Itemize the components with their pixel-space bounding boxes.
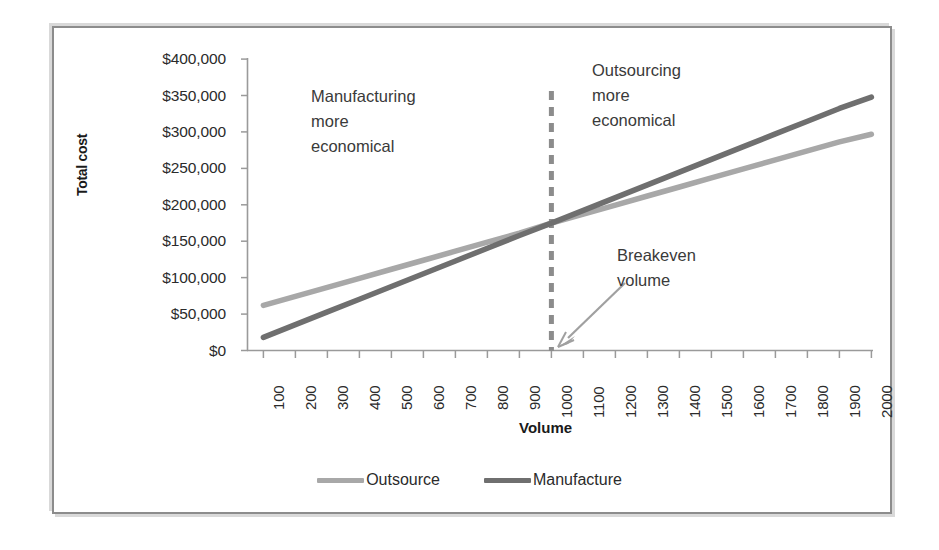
x-tick-label: 100: [270, 386, 287, 410]
x-tick-label: 600: [430, 386, 447, 410]
x-tick-label: 1100: [590, 387, 607, 418]
annotation-line: more: [311, 109, 416, 134]
annotation-line: economical: [592, 108, 681, 133]
x-tick-label: 1800: [814, 385, 831, 418]
annotation-line: economical: [311, 134, 416, 159]
annotation-outsourcing-region: Outsourcing more economical: [592, 58, 681, 133]
x-tick-label: 500: [398, 386, 415, 410]
x-tick-label: 400: [366, 386, 383, 410]
x-tick-label: 1600: [750, 385, 767, 418]
x-tick-label: 2000: [878, 385, 895, 418]
x-tick-label: 900: [526, 386, 543, 410]
annotation-line: Outsourcing: [592, 58, 681, 83]
y-axis-title: Total cost: [74, 134, 90, 196]
annotation-line: volume: [617, 268, 696, 293]
x-tick-label: 1000: [558, 385, 575, 418]
legend-item-manufacture[interactable]: Manufacture: [484, 471, 622, 489]
x-axis-tick-labels: 100 200 300 400 500 600 700 800 900 1000…: [0, 0, 939, 550]
annotation-line: Manufacturing: [311, 84, 416, 109]
x-tick-label: 1700: [782, 385, 799, 418]
x-tick-label: 200: [302, 386, 319, 410]
x-tick-label: 1900: [846, 385, 863, 418]
chart-screenshot: $0 $50,000 $100,000 $150,000 $200,000 $2…: [0, 0, 939, 550]
annotation-manufacturing-region: Manufacturing more economical: [311, 84, 416, 159]
x-tick-label: 300: [334, 386, 351, 410]
annotation-line: more: [592, 83, 681, 108]
legend-swatch-icon: [484, 478, 531, 483]
legend-swatch-icon: [317, 478, 364, 483]
legend-label: Manufacture: [533, 471, 622, 489]
legend-label: Outsource: [366, 471, 440, 489]
x-axis-title: Volume: [519, 419, 572, 436]
x-tick-label: 1500: [718, 385, 735, 418]
x-tick-label: 1200: [622, 385, 639, 418]
annotation-breakeven-volume: Breakeven volume: [617, 243, 696, 293]
x-tick-label: 700: [462, 386, 479, 410]
chart-legend: Outsource Manufacture: [0, 471, 939, 489]
x-tick-label: 1300: [654, 385, 671, 418]
x-tick-label: 800: [494, 386, 511, 410]
annotation-line: Breakeven: [617, 243, 696, 268]
legend-item-outsource[interactable]: Outsource: [317, 471, 440, 489]
x-tick-label: 1400: [686, 385, 703, 418]
